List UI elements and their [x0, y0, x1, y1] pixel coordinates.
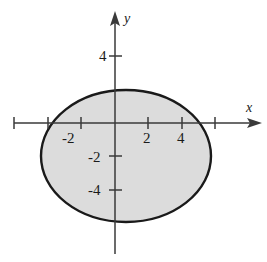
x-tick-label-2: 2	[143, 131, 151, 146]
x-axis-label: x	[246, 101, 252, 115]
coordinate-plot-svg	[0, 0, 267, 262]
shaded-ellipse-region	[41, 90, 211, 222]
y-axis-label: y	[124, 12, 130, 26]
y-tick-label-4: 4	[99, 49, 107, 64]
y-tick-label-neg2: -2	[88, 150, 101, 165]
figure-container: -2 2 4 4 -2 -4 x y	[0, 0, 267, 262]
x-tick-label-4: 4	[177, 131, 185, 146]
x-tick-label-neg2: -2	[62, 131, 75, 146]
y-tick-label-neg4: -4	[88, 183, 101, 198]
